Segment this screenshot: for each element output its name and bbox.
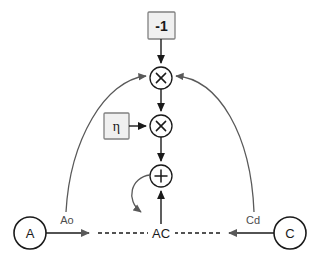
node-plus[interactable] xyxy=(150,165,172,187)
edge-label-ao: Ao xyxy=(60,214,73,226)
var-c-label: C xyxy=(285,226,294,241)
node-eta[interactable]: η xyxy=(104,113,129,139)
edge-plus-self-loop-to-ac xyxy=(132,175,150,212)
edge-c-arc-to-mul-top xyxy=(176,76,254,212)
diagram-canvas: -1 η xyxy=(0,0,316,259)
computation-graph: -1 η xyxy=(0,0,316,259)
var-ac-label: AC xyxy=(152,226,170,241)
node-var-a[interactable]: A xyxy=(14,217,46,249)
node-const-neg-one[interactable]: -1 xyxy=(148,12,175,39)
eta-label: η xyxy=(113,119,120,134)
edge-a-arc-to-mul-top xyxy=(66,76,146,212)
node-var-c[interactable]: C xyxy=(274,217,306,249)
edge-label-cd: Cd xyxy=(246,214,260,226)
const-neg-one-label: -1 xyxy=(155,18,168,34)
var-a-label: A xyxy=(26,226,35,241)
node-mul-mid[interactable] xyxy=(150,115,172,137)
node-mul-top[interactable] xyxy=(150,67,172,89)
